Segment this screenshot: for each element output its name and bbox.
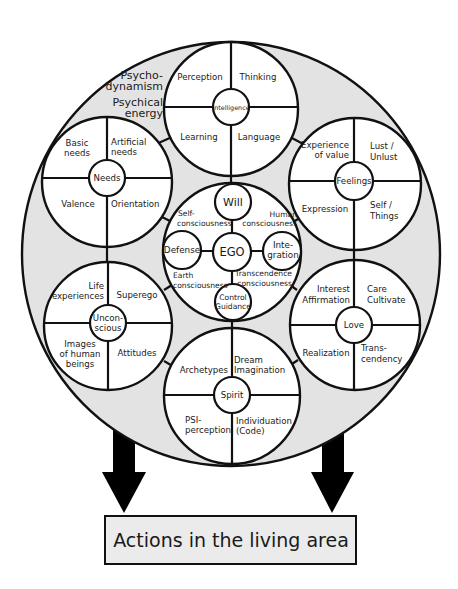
svg-text:Love: Love [344,320,364,330]
svg-text:Learning: Learning [180,132,217,142]
svg-text:Lust /: Lust / [370,141,394,151]
svg-text:Intelligence: Intelligence [212,104,249,112]
svg-text:Artificial: Artificial [111,137,146,147]
actions-box: Actions in the living area [105,516,356,564]
svg-text:Expression: Expression [302,204,349,214]
svg-text:Orientation: Orientation [111,199,160,209]
svg-text:Needs: Needs [94,173,121,183]
svg-text:Thinking: Thinking [239,72,277,82]
svg-text:Realization: Realization [302,348,349,358]
svg-text:Uncon-: Uncon- [93,313,123,323]
svg-text:Spirit: Spirit [221,390,244,400]
svg-text:dynamism: dynamism [106,80,163,93]
svg-text:Care: Care [367,284,387,294]
svg-text:consciousness: consciousness [242,219,297,228]
svg-text:Attitudes: Attitudes [118,348,157,358]
svg-text:Earth: Earth [173,271,194,280]
module-intelligence: Intelligence Perception Thinking Learnin… [164,42,298,176]
svg-text:(Code): (Code) [236,426,265,436]
module-ego: Will Defense Inte- gration Control Guida… [163,183,301,321]
svg-text:Superego: Superego [117,290,158,300]
module-spirit: Spirit Archetypes Dream Imagination PSI-… [164,328,300,464]
svg-text:Things: Things [369,211,399,221]
module-unconscious: Uncon- scious Life experiences Superego … [44,262,172,390]
svg-text:Individuation: Individuation [236,416,292,426]
svg-text:needs: needs [64,148,90,158]
svg-text:Feelings: Feelings [336,176,372,186]
svg-text:Inte-: Inte- [273,240,293,250]
svg-text:Interest: Interest [317,284,351,294]
svg-text:gration: gration [267,250,298,260]
svg-text:Dream: Dream [234,355,263,365]
module-feelings: Feelings Experience of value Lust / Unlu… [289,118,421,250]
module-love: Love Interest Affirmation Care Cultivate… [290,260,420,390]
svg-text:Archetypes: Archetypes [180,365,229,375]
module-needs: Needs Basic needs Artificial needs Valen… [42,117,172,247]
svg-text:EGO: EGO [219,245,244,259]
svg-text:Actions in the living area: Actions in the living area [113,529,349,551]
svg-text:consciousness: consciousness [237,279,292,288]
svg-text:Guidance: Guidance [215,302,251,311]
svg-text:Perception: Perception [177,72,222,82]
svg-text:Affirmation: Affirmation [302,295,350,305]
svg-text:Trans-: Trans- [360,343,387,353]
psyche-diagram: Psycho- dynamism Psychical energy Intell… [0,0,458,589]
svg-text:Cultivate: Cultivate [367,295,406,305]
svg-text:Imagination: Imagination [234,365,285,375]
svg-text:Life: Life [89,281,105,291]
svg-text:Unlust: Unlust [370,152,398,162]
svg-text:Experience: Experience [301,140,349,150]
svg-text:Images: Images [64,339,96,349]
svg-text:energy: energy [125,107,164,120]
svg-text:Transcendence: Transcendence [234,269,292,278]
svg-text:Defense: Defense [164,245,200,255]
svg-text:Human: Human [270,210,298,219]
svg-text:Valence: Valence [61,199,95,209]
svg-text:Self-: Self- [178,209,195,218]
svg-text:perception: perception [185,425,231,435]
svg-text:of human: of human [60,349,101,359]
svg-text:PSI-: PSI- [185,415,201,425]
svg-text:Control: Control [219,293,246,302]
svg-text:of value: of value [315,150,350,160]
svg-text:experiences: experiences [52,291,105,301]
svg-text:scious: scious [95,323,122,333]
svg-text:Self /: Self / [370,200,392,210]
svg-text:Language: Language [238,132,280,142]
svg-text:consciousness: consciousness [177,219,232,228]
svg-text:cendency: cendency [361,354,402,364]
svg-text:beings: beings [66,359,95,369]
svg-text:needs: needs [111,147,137,157]
svg-text:Will: Will [223,196,243,209]
svg-text:Basic: Basic [66,138,89,148]
svg-text:consciousness: consciousness [173,281,228,290]
